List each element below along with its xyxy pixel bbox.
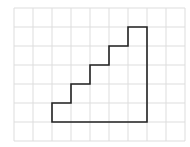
grid-diagram [0, 0, 190, 147]
staircase-shape [52, 27, 147, 122]
grid-lines [14, 8, 185, 141]
